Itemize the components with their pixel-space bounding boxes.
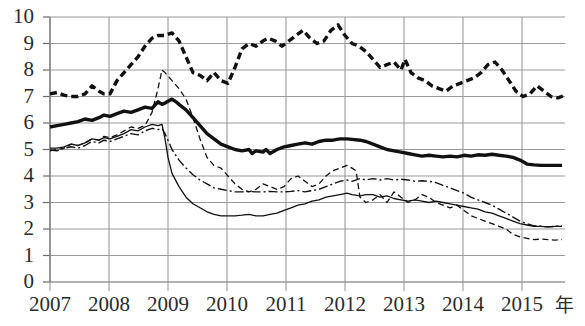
- y-axis-tick-label: 7: [0, 86, 34, 107]
- x-axis-unit-label: 年: [555, 296, 574, 315]
- y-axis-tick-label: 5: [0, 139, 34, 160]
- x-axis-tick-label: 2008: [78, 294, 140, 315]
- y-axis-tick-label: 3: [0, 192, 34, 213]
- y-axis-tick-label: 10: [0, 6, 34, 27]
- y-axis-tick-label: 8: [0, 59, 34, 80]
- x-axis-tick-label: 2007: [19, 294, 81, 315]
- x-axis-tick-label: 2011: [255, 294, 317, 315]
- y-axis-tick-label: 2: [0, 218, 34, 239]
- x-axis-tick-label: 2009: [137, 294, 199, 315]
- series-thick-dashed: [50, 25, 565, 98]
- x-axis-tick-label: 2010: [196, 294, 258, 315]
- y-axis-tick-label: 1: [0, 245, 34, 266]
- x-axis-tick-label: 2012: [314, 294, 376, 315]
- y-axis-tick-label: 9: [0, 33, 34, 54]
- x-axis-tick-label: 2013: [373, 294, 435, 315]
- chart-canvas: [0, 0, 585, 326]
- y-axis-tick-label: 4: [0, 165, 34, 186]
- y-axis-tick-label: 0: [0, 271, 34, 292]
- line-chart: 012345678910 200720082009201020112012201…: [0, 0, 585, 326]
- y-axis-tick-label: 6: [0, 112, 34, 133]
- x-axis-tick-label: 2014: [432, 294, 494, 315]
- x-axis-tick-label: 2015: [491, 294, 553, 315]
